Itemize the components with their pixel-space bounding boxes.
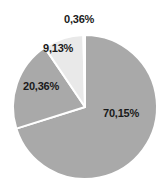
pie-slice-label-9: 9,13%	[43, 42, 73, 54]
pie-slice-label-20: 20,36%	[23, 80, 59, 92]
pie-slice-label-70: 70,15%	[103, 107, 139, 119]
pie-chart-canvas	[0, 0, 168, 193]
pie-slice-label-0: 0,36%	[64, 13, 94, 25]
pie-chart-figure: 70,15% 20,36% 9,13% 0,36%	[0, 0, 168, 193]
